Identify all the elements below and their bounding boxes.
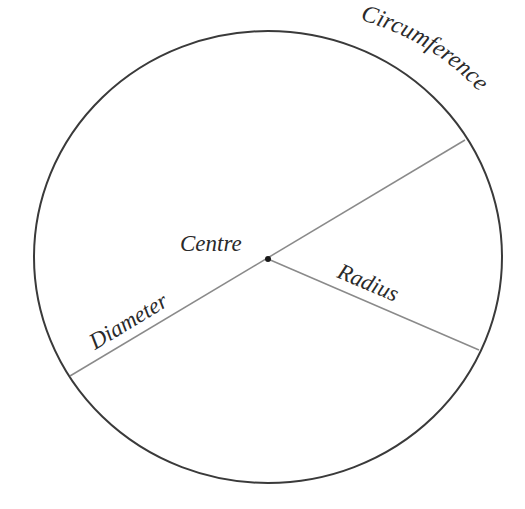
radius-label: Radius (333, 258, 403, 306)
diameter-label: Diameter (84, 288, 173, 355)
circumference-label: Circumference (359, 0, 495, 96)
centre-point (265, 256, 271, 262)
circle-diagram: Circumference Centre Radius Diameter (0, 0, 525, 509)
centre-label: Centre (180, 231, 242, 256)
